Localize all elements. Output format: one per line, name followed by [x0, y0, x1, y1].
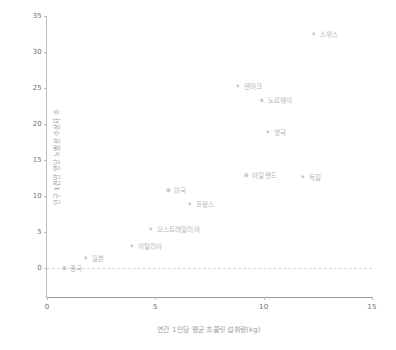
y-axis-tick-label: 0	[37, 264, 47, 272]
data-point[interactable]	[266, 130, 269, 133]
y-axis-tick-label: 25	[33, 84, 47, 92]
data-point-label: 미국	[174, 185, 186, 195]
x-axis-tick-label: 10	[259, 297, 268, 311]
data-point-label: 중국	[70, 263, 82, 273]
data-point-label: 덴마크	[244, 81, 262, 91]
y-axis-title: 인구 1천만 명당 노벨상 수상자 수	[52, 109, 61, 205]
zero-reference-line	[47, 268, 372, 269]
x-axis-title: 연간 1인당 평균 초콜릿 섭취량(kg)	[46, 324, 372, 334]
data-point-label: 독일	[309, 172, 321, 182]
data-point[interactable]	[63, 266, 66, 269]
data-point[interactable]	[260, 99, 263, 102]
data-point-label: 아일랜드	[252, 170, 276, 180]
data-point[interactable]	[301, 175, 304, 178]
x-axis-tick-label: 0	[45, 297, 50, 311]
y-axis-tick-label: 15	[33, 156, 47, 164]
data-point-label: 오스트레일리아	[157, 224, 200, 234]
data-point-label: 일본	[92, 253, 104, 263]
data-point[interactable]	[188, 202, 191, 205]
data-point[interactable]	[236, 84, 239, 87]
data-point[interactable]	[149, 227, 152, 230]
data-point-label: 스위스	[320, 29, 338, 39]
y-axis-tick-label: 30	[33, 48, 47, 56]
y-axis-tick-label: 20	[33, 120, 47, 128]
data-point-label: 영국	[274, 127, 286, 137]
data-point[interactable]	[245, 174, 248, 177]
y-axis-tick-label: 35	[33, 12, 47, 20]
data-point[interactable]	[312, 32, 315, 35]
scatter-chart: 05101520253035051015중국일본이탈리아오스트레일리아미국프랑스…	[0, 0, 396, 350]
data-point-label: 노르웨이	[268, 95, 292, 105]
x-axis-tick-label: 15	[367, 297, 376, 311]
data-point-label: 프랑스	[196, 199, 214, 209]
data-point-label: 이탈리아	[138, 241, 162, 251]
x-axis-tick-label: 5	[153, 297, 158, 311]
data-point[interactable]	[167, 189, 170, 192]
plot-area: 05101520253035051015중국일본이탈리아오스트레일리아미국프랑스…	[46, 16, 372, 298]
y-axis-tick-label: 5	[37, 228, 47, 236]
y-axis-tick-label: 10	[33, 192, 47, 200]
data-point[interactable]	[84, 256, 87, 259]
data-point[interactable]	[130, 244, 133, 247]
